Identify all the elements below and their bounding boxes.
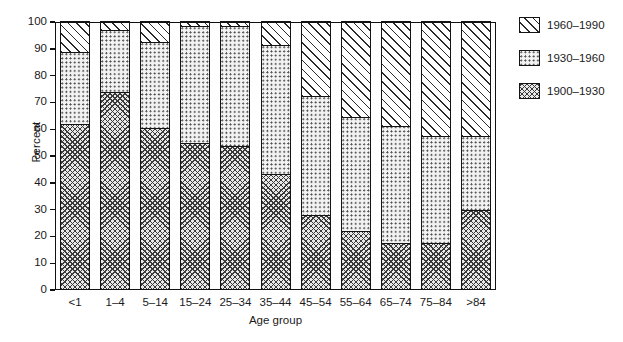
- stacked-bar: [180, 22, 210, 290]
- legend-swatch-icon: [519, 50, 540, 66]
- bar-segment: [421, 21, 451, 137]
- bar-segment: [421, 136, 451, 244]
- bar-segment: [180, 143, 210, 290]
- bar-segment: [140, 42, 170, 129]
- legend-item[interactable]: 1930–1960: [519, 47, 619, 69]
- bar-segment: [301, 215, 331, 290]
- stacked-bar: [421, 22, 451, 290]
- stacked-bar: [261, 22, 291, 290]
- stacked-bar: [461, 22, 491, 290]
- legend-item[interactable]: 1960–1990: [519, 14, 619, 36]
- chart-figure: 0102030405060708090100 Percent <11–45–14…: [0, 0, 623, 342]
- y-axis-tick-label: 100: [28, 14, 47, 29]
- bar-segment: [461, 136, 491, 211]
- y-axis: 0102030405060708090100: [0, 0, 55, 342]
- bar-segment: [220, 26, 250, 146]
- bar-segment: [261, 21, 291, 46]
- bar-segment: [60, 21, 90, 53]
- plot-area: [55, 22, 496, 290]
- bar-segment: [341, 231, 371, 290]
- stacked-bar: [341, 22, 371, 290]
- legend-item-label: 1960–1990: [547, 19, 605, 31]
- bar-segment: [261, 45, 291, 175]
- y-axis-tick-label: 90: [34, 41, 47, 56]
- stacked-bar: [140, 22, 170, 290]
- x-axis-title: Age group: [55, 314, 496, 326]
- bar-segment: [381, 21, 411, 127]
- stacked-bar: [381, 22, 411, 290]
- bar-segment: [140, 128, 170, 290]
- bar-segment: [341, 117, 371, 232]
- stacked-bar: [100, 22, 130, 290]
- y-axis-tick-label: 80: [34, 68, 47, 83]
- bar-segment: [220, 145, 250, 290]
- y-axis-title: Percent: [30, 82, 42, 202]
- x-axis-tick-label: >84: [451, 294, 501, 310]
- stacked-bar: [220, 22, 250, 290]
- legend-swatch-icon: [519, 83, 540, 99]
- bar-segment: [140, 21, 170, 44]
- bar-segment: [180, 21, 210, 28]
- legend: 1960–19901930–19601900–1930: [519, 14, 619, 113]
- bar-segment: [381, 125, 411, 244]
- stacked-bar: [60, 22, 90, 290]
- bar-segment: [381, 243, 411, 290]
- legend-item-label: 1930–1960: [547, 52, 605, 64]
- legend-swatch-icon: [519, 17, 540, 33]
- bar-segment: [461, 21, 491, 137]
- x-axis-tick-labels: <11–45–1415–2425–3435–4445–5455–6465–747…: [55, 294, 496, 316]
- bar-segment: [180, 26, 210, 144]
- bar-segment: [220, 21, 250, 28]
- bar-segment: [100, 21, 130, 32]
- bar-segment: [60, 52, 90, 126]
- bar-segment: [301, 96, 331, 216]
- stacked-bar: [301, 22, 331, 290]
- legend-item-label: 1900–1930: [547, 85, 605, 97]
- y-axis-tick-label: 20: [34, 228, 47, 243]
- bar-segment: [60, 124, 90, 290]
- bar-segment: [100, 92, 130, 290]
- y-axis-tick-label: 10: [34, 255, 47, 270]
- bar-segment: [100, 30, 130, 93]
- bar-segment: [301, 21, 331, 97]
- bar-segment: [341, 21, 371, 119]
- y-axis-tick-label: 0: [41, 282, 47, 297]
- legend-item[interactable]: 1900–1930: [519, 80, 619, 102]
- bar-segment: [421, 243, 451, 290]
- y-axis-tick-label: 30: [34, 202, 47, 217]
- bar-segment: [261, 174, 291, 290]
- bar-segment: [461, 210, 491, 290]
